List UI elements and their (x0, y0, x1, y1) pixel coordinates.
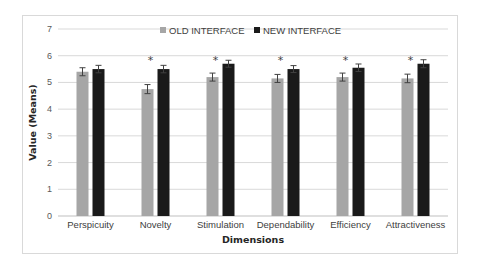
bar-old-efficiency (337, 77, 349, 216)
x-tick-label: Attractiveness (386, 219, 446, 230)
x-tick-label: Efficiency (330, 219, 371, 230)
bar-old-perspicuity (77, 72, 89, 216)
y-tick-label: 7 (47, 24, 52, 34)
y-tick-label: 6 (47, 51, 52, 61)
bar-new-perspicuity (93, 69, 105, 216)
bar-new-stimulation (223, 64, 235, 216)
x-axis-title: Dimensions (222, 234, 284, 245)
x-tick-label: Dependability (257, 219, 315, 230)
bar-old-stimulation (207, 77, 219, 216)
bars (77, 64, 430, 216)
legend-label: NEW INTERFACE (263, 25, 341, 36)
y-tick-labels: 01234567 (47, 24, 52, 221)
y-tick-label: 2 (47, 158, 52, 168)
significance-marker: * (213, 54, 219, 67)
bar-new-dependability (288, 69, 300, 216)
bar-chart: 01234567 ***** PerspicuityNoveltyStimula… (0, 0, 478, 274)
significance-marker: * (148, 54, 154, 67)
legend-swatch (160, 27, 166, 33)
legend-label: OLD INTERFACE (169, 25, 245, 36)
bar-new-efficiency (353, 68, 365, 216)
significance-marker: * (278, 54, 284, 67)
y-tick-label: 5 (47, 77, 52, 87)
y-tick-label: 1 (47, 184, 52, 194)
legend-swatch (254, 27, 260, 33)
legend: OLD INTERFACENEW INTERFACE (160, 25, 341, 36)
bar-new-attractiveness (418, 64, 430, 216)
significance-marker: * (343, 54, 349, 67)
x-tick-label: Novelty (140, 219, 172, 230)
y-tick-label: 0 (47, 211, 52, 221)
y-tick-label: 4 (47, 104, 52, 114)
bar-old-novelty (142, 89, 154, 216)
y-tick-label: 3 (47, 131, 52, 141)
x-tick-label: Perspicuity (67, 219, 114, 230)
bar-old-attractiveness (402, 78, 414, 216)
x-tick-labels: PerspicuityNoveltyStimulationDependabili… (67, 219, 445, 230)
bar-old-dependability (272, 78, 284, 216)
bar-new-novelty (158, 69, 170, 216)
y-axis-title: Value (Means) (27, 84, 38, 160)
x-tick-label: Stimulation (197, 219, 244, 230)
significance-marker: * (408, 54, 414, 67)
error-bars (80, 60, 427, 94)
gridlines (58, 29, 448, 216)
